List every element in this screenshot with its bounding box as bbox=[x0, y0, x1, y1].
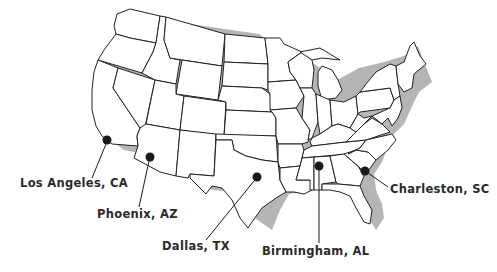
leader-phoenix bbox=[139, 161, 149, 207]
state-colorado bbox=[180, 96, 226, 136]
marker-phoenix[interactable] bbox=[146, 153, 155, 162]
label-charleston: Charleston, SC bbox=[390, 182, 490, 196]
label-dallas: Dallas, TX bbox=[162, 239, 230, 253]
state-nebraska bbox=[218, 86, 272, 112]
state-kansas bbox=[224, 110, 276, 136]
marker-birmingham[interactable] bbox=[315, 162, 324, 171]
label-los-angeles: Los Angeles, CA bbox=[20, 176, 128, 190]
leader-los-angeles bbox=[92, 144, 106, 178]
state-montana bbox=[164, 17, 225, 66]
label-birmingham: Birmingham, AL bbox=[262, 244, 369, 258]
us-map bbox=[0, 0, 497, 272]
marker-dallas[interactable] bbox=[253, 173, 262, 182]
marker-charleston[interactable] bbox=[361, 167, 370, 176]
state-new-mexico bbox=[176, 130, 216, 178]
state-arizona bbox=[134, 124, 180, 176]
state-wyoming bbox=[176, 60, 222, 100]
state-south-dakota bbox=[222, 62, 268, 90]
label-phoenix: Phoenix, AZ bbox=[97, 207, 178, 221]
marker-los-angeles[interactable] bbox=[103, 136, 112, 145]
state-north-dakota bbox=[224, 34, 268, 64]
